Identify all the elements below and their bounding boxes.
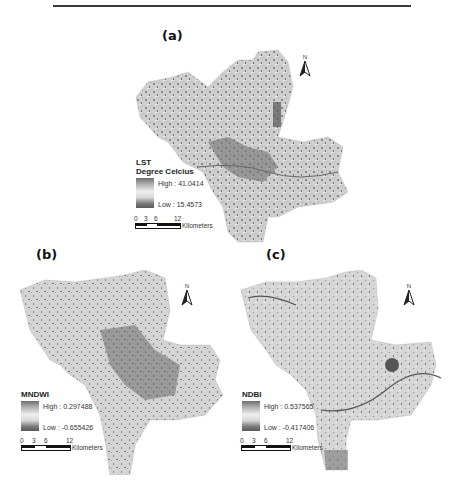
panel-a-legend: LST Degree Celcius High : 41.0414 Low : … bbox=[136, 158, 236, 220]
panel-b-scale-bar: 0 3 6 12 Kilometers bbox=[20, 437, 130, 453]
color-ramp bbox=[21, 401, 39, 431]
north-arrow-icon bbox=[180, 290, 194, 306]
panel-a-label: (a) bbox=[162, 28, 183, 43]
panel-c-legend: NDBI High : 0.537565 Low : -0.417406 bbox=[242, 390, 342, 440]
panel-b-label: (b) bbox=[36, 247, 57, 262]
north-arrow-icon bbox=[402, 290, 416, 306]
panel-a-scale-bar: 0 3 6 12 Kilometers bbox=[134, 215, 244, 231]
color-ramp bbox=[242, 401, 260, 431]
panel-a-north-arrow: N bbox=[298, 54, 312, 78]
panel-c-label: (c) bbox=[266, 247, 286, 262]
panel-b-north-arrow: N bbox=[180, 283, 194, 307]
panel-c-scale-bar: 0 3 6 12 Kilometers bbox=[240, 437, 350, 453]
top-divider-rule bbox=[53, 5, 411, 7]
color-ramp bbox=[136, 178, 154, 208]
panel-c-north-arrow: N bbox=[402, 283, 416, 307]
panel-b-legend: MNDWI High : 0.297488 Low : -0.655426 bbox=[21, 390, 121, 440]
north-arrow-icon bbox=[298, 61, 312, 77]
